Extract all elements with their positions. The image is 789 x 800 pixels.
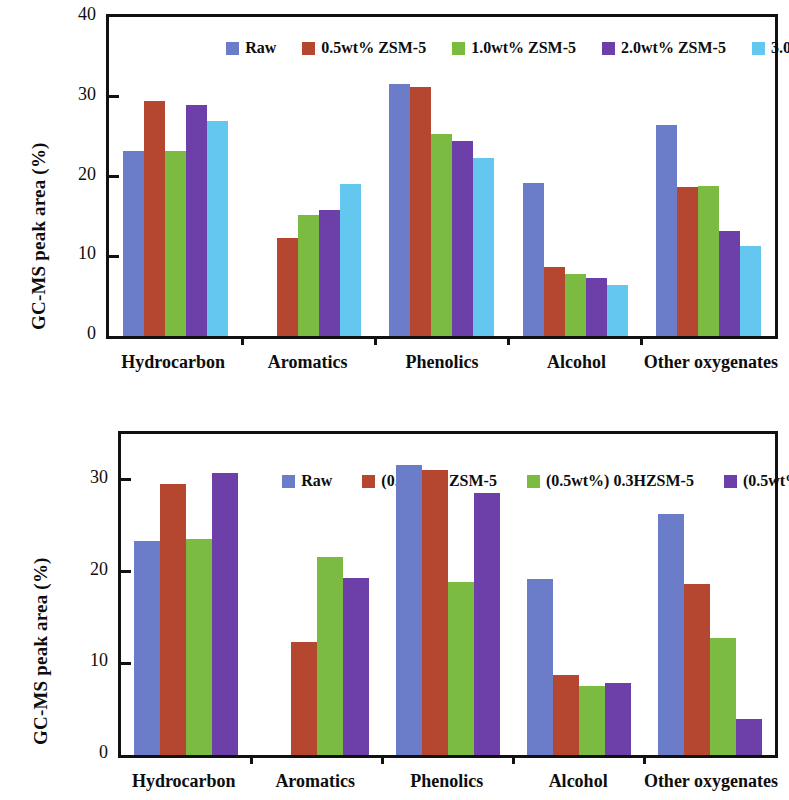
- bar: [607, 285, 628, 336]
- bar: [527, 579, 553, 755]
- y-axis-tick-label: 20: [78, 163, 96, 184]
- bar: [736, 719, 762, 755]
- y-axis-tick: [121, 478, 131, 481]
- bar: [658, 514, 684, 755]
- chart-panel-a: GC-MS peak area (%) 010203040 Raw0.5wt% …: [0, 0, 789, 400]
- bar: [605, 683, 631, 755]
- bar: [319, 210, 340, 336]
- y-axis-tick: [121, 662, 131, 665]
- bar-group-phenolics: [383, 434, 514, 755]
- y-axis-tick-label: 10: [90, 650, 108, 671]
- bar-group-phenolics: [375, 17, 508, 336]
- bar: [389, 84, 410, 336]
- bar: [340, 184, 361, 336]
- bar: [553, 675, 579, 755]
- y-axis-tick-label: 0: [87, 323, 96, 344]
- y-axis-tick-label: 20: [90, 558, 108, 579]
- panel-a-y-axis-labels: 010203040: [58, 14, 96, 339]
- panel-a-bars-layer: [109, 17, 775, 336]
- bar: [523, 183, 544, 336]
- bar: [544, 267, 565, 336]
- panel-a-plot-area: Raw0.5wt% ZSM-51.0wt% ZSM-52.0wt% ZSM-53…: [106, 14, 778, 339]
- bar-group-hydrocarbon: [121, 434, 252, 755]
- bar: [123, 151, 144, 336]
- x-axis-tick: [381, 755, 384, 764]
- x-axis-category-label: Other oxygenates: [644, 771, 778, 792]
- x-axis-tick: [241, 336, 244, 345]
- y-axis-tick-label: 30: [90, 466, 108, 487]
- bar: [207, 121, 228, 336]
- bar: [144, 101, 165, 336]
- panel-b-x-axis-labels: HydrocarbonAromaticsPhenolicsAlcoholOthe…: [118, 771, 778, 792]
- bar: [134, 541, 160, 755]
- x-axis-tick: [374, 336, 377, 345]
- bar: [698, 186, 719, 336]
- bar: [396, 465, 422, 755]
- bar: [186, 105, 207, 336]
- x-axis-category-label: Alcohol: [509, 352, 643, 373]
- bar: [684, 584, 710, 756]
- x-axis-tick: [640, 336, 643, 345]
- bar: [719, 231, 740, 336]
- bar: [291, 642, 317, 755]
- y-axis-tick-label: 40: [78, 4, 96, 25]
- bar: [186, 539, 212, 755]
- bar: [277, 238, 298, 336]
- bar-group-other-oxygenates: [644, 434, 775, 755]
- bar: [656, 125, 677, 336]
- bar: [474, 493, 500, 755]
- bar-group-aromatics: [242, 17, 375, 336]
- bar: [422, 470, 448, 755]
- panel-b-y-axis-title: GC-MS peak area (%): [30, 557, 52, 745]
- y-axis-tick: [109, 95, 119, 98]
- y-axis-tick: [121, 570, 131, 573]
- x-axis-category-label: Phenolics: [381, 771, 512, 792]
- x-axis-category-label: Aromatics: [240, 352, 374, 373]
- bar: [452, 141, 473, 336]
- x-axis-category-label: Aromatics: [249, 771, 380, 792]
- bar-group-aromatics: [252, 434, 383, 755]
- bar: [586, 278, 607, 336]
- chart-panel-b: GC-MS peak area (%) 0102030 Raw(0.5wt%) …: [0, 400, 789, 800]
- bar-group-alcohol: [509, 17, 642, 336]
- bar-group-other-oxygenates: [642, 17, 775, 336]
- bar: [579, 686, 605, 755]
- y-axis-tick-label: 30: [78, 83, 96, 104]
- figure-gcms-peak-area: GC-MS peak area (%) 010203040 Raw0.5wt% …: [0, 0, 789, 800]
- x-axis-category-label: Phenolics: [375, 352, 509, 373]
- y-axis-tick: [109, 255, 119, 258]
- bar: [343, 578, 369, 755]
- x-axis-category-label: Other oxygenates: [644, 352, 778, 373]
- bar: [212, 473, 238, 755]
- y-axis-tick-label: 10: [78, 243, 96, 264]
- bar: [473, 158, 494, 336]
- panel-b-y-axis-labels: 0102030: [70, 431, 108, 758]
- x-axis-category-label: Alcohol: [512, 771, 643, 792]
- bar: [565, 274, 586, 336]
- x-axis-tick: [643, 755, 646, 764]
- panel-a-y-axis-title: GC-MS peak area (%): [28, 142, 50, 330]
- bar: [165, 151, 186, 336]
- x-axis-tick: [507, 336, 510, 345]
- bar: [431, 134, 452, 336]
- bar: [160, 484, 186, 755]
- y-axis-tick-label: 0: [99, 742, 108, 763]
- x-axis-tick: [512, 755, 515, 764]
- bar: [410, 87, 431, 336]
- bar: [740, 246, 761, 336]
- bar: [710, 638, 736, 755]
- bar-group-hydrocarbon: [109, 17, 242, 336]
- bar: [298, 215, 319, 336]
- bar-group-alcohol: [513, 434, 644, 755]
- x-axis-category-label: Hydrocarbon: [106, 352, 240, 373]
- bar: [448, 582, 474, 755]
- bar: [677, 187, 698, 336]
- x-axis-category-label: Hydrocarbon: [118, 771, 249, 792]
- panel-b-bars-layer: [121, 434, 775, 755]
- panel-a-x-axis-labels: HydrocarbonAromaticsPhenolicsAlcoholOthe…: [106, 352, 778, 373]
- y-axis-tick: [109, 175, 119, 178]
- panel-b-plot-area: Raw(0.5wt%) ZSM-5(0.5wt%) 0.3HZSM-5(0.5w…: [118, 431, 778, 758]
- bar: [317, 557, 343, 755]
- x-axis-tick: [250, 755, 253, 764]
